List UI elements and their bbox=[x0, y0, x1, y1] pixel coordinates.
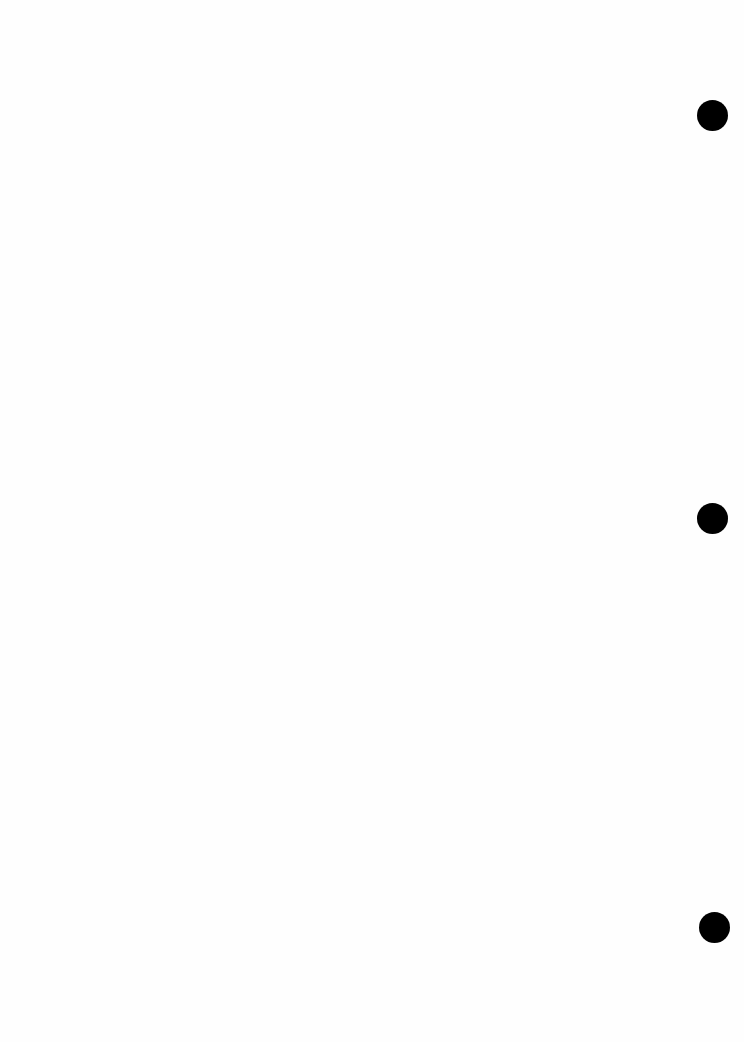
punch-hole-middle bbox=[697, 503, 728, 534]
punch-hole-top bbox=[697, 100, 728, 131]
blank-page bbox=[0, 0, 744, 1042]
punch-hole-bottom bbox=[699, 912, 730, 943]
